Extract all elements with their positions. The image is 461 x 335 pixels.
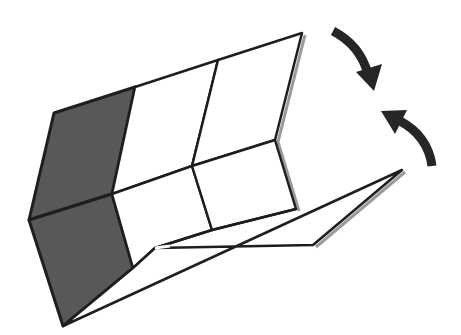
diagram-canvas: Folded box with fold arrows <box>0 0 461 335</box>
front-flap-top-edge <box>155 246 170 248</box>
fold-up-arrow-icon <box>381 110 432 166</box>
back-panel-upper-right <box>192 33 302 166</box>
folded-box-diagram <box>0 0 461 335</box>
fold-down-arrow-icon <box>333 31 382 91</box>
